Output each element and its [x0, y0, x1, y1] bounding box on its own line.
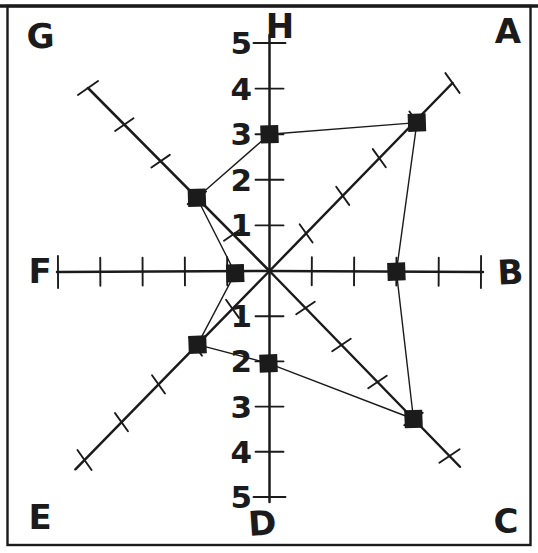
axis-tick-C-2 [332, 339, 351, 352]
axis-line-A [270, 83, 453, 271]
axis-number-label-H-3: 3 [230, 116, 252, 152]
data-point-B [387, 262, 406, 281]
axis-tick-G-5 [78, 81, 98, 95]
axis-tick-C-1 [296, 302, 315, 315]
data-point-G [188, 188, 207, 207]
axis-number-label-H-4: 4 [230, 71, 252, 107]
axis-letter-label-C: C [494, 501, 519, 541]
axis-line-B [270, 271, 483, 272]
axis-tick-C-3 [368, 376, 387, 389]
data-point-D [259, 354, 278, 373]
axis-tick-E-5 [77, 450, 91, 470]
axis-number-label-D-3: 3 [230, 389, 252, 425]
axis-letter-label-F: F [28, 251, 51, 291]
axis-letter-label-G: G [26, 16, 55, 57]
axis-number-label-H-5: 5 [230, 25, 252, 61]
axis-number-label-H-1: 1 [230, 207, 252, 243]
axis-tick-A-5 [445, 73, 459, 93]
axis-letter-label-B: B [496, 251, 524, 292]
radar-chart-page: 12345HABC12345DEFG [0, 0, 538, 553]
axis-letter-label-D: D [247, 502, 278, 544]
data-point-C [404, 410, 423, 429]
axis-tick-G-3 [151, 155, 169, 168]
axis-letter-label-A: A [495, 11, 522, 51]
axis-tick-G-4 [115, 118, 133, 131]
data-point-A [408, 113, 427, 132]
data-point-H [260, 125, 279, 144]
axis-number-label-D-4: 4 [230, 434, 252, 470]
data-point-E [188, 335, 207, 354]
axis-line-C [270, 271, 460, 467]
axis-number-label-D-1: 1 [230, 298, 252, 334]
axis-letter-label-H: H [266, 6, 294, 46]
axis-number-label-D-2: 2 [230, 343, 252, 379]
radar-chart: 12345HABC12345DEFG [0, 0, 538, 553]
axis-tick-C-5 [439, 449, 459, 463]
data-point-F [226, 264, 245, 283]
axis-letter-label-E: E [28, 497, 51, 537]
axis-number-label-H-2: 2 [230, 162, 252, 198]
